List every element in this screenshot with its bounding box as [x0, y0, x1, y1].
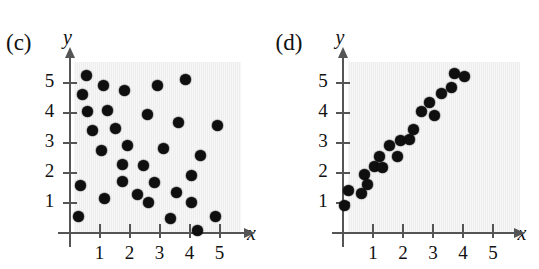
panel-d-y-tick-2 — [336, 172, 350, 174]
data-point — [192, 225, 203, 236]
data-point — [117, 159, 128, 170]
panel-d-x-tick-label-5: 5 — [485, 242, 501, 264]
panel-c-x-tick-2 — [129, 224, 131, 238]
data-point — [73, 211, 84, 222]
panel-c-y-axis — [69, 57, 71, 247]
data-point — [436, 88, 447, 99]
data-point — [339, 200, 350, 211]
data-point — [408, 124, 419, 135]
panel-c-y-tick-2 — [63, 172, 77, 174]
data-point — [429, 110, 440, 121]
panel-c-y-tick-5 — [63, 82, 77, 84]
panel-d-x-tick-label-1: 1 — [365, 242, 381, 264]
data-point — [186, 197, 197, 208]
data-point — [96, 145, 107, 156]
data-point — [384, 140, 395, 151]
panel-c-y-axis-label: y — [63, 26, 72, 49]
data-point — [171, 187, 182, 198]
panel-c-x-tick-label-4: 4 — [182, 242, 198, 264]
panel-d-x-tick-1 — [372, 224, 374, 238]
panel-d-x-tick-4 — [462, 224, 464, 238]
data-point — [404, 134, 415, 145]
panel-d-x-axis-arrow — [514, 228, 525, 238]
data-point — [77, 89, 88, 100]
data-point — [110, 123, 121, 134]
panel-c-y-tick-1 — [63, 202, 77, 204]
data-point — [173, 117, 184, 128]
panel-d-y-tick-4 — [336, 112, 350, 114]
data-point — [122, 140, 133, 151]
panel-d-x-tick-label-4: 4 — [455, 242, 471, 264]
data-point — [362, 179, 373, 190]
panel-d-x-tick-label-3: 3 — [425, 242, 441, 264]
panel-d-x-tick-label-2: 2 — [395, 242, 411, 264]
panel-d-plot-background — [348, 62, 520, 233]
data-point — [459, 71, 470, 82]
panel-d-x-tick-3 — [432, 224, 434, 238]
scatterplot-figure: (c) y x 1234512345 (d) y x 1234512345 — [0, 0, 539, 269]
panel-d-y-tick-label-1: 1 — [315, 190, 331, 212]
panel-d-y-tick-label-3: 3 — [315, 130, 331, 152]
data-point — [186, 170, 197, 181]
panel-d-y-axis-label: y — [336, 26, 345, 49]
panel-c-y-axis-arrow — [65, 47, 75, 58]
panel-c-x-tick-5 — [219, 224, 221, 238]
panel-d-y-tick-5 — [336, 82, 350, 84]
panel-c-y-tick-label-5: 5 — [42, 70, 58, 92]
data-point — [143, 197, 154, 208]
panel-c-x-tick-3 — [159, 224, 161, 238]
panel-d-x-tick-2 — [402, 224, 404, 238]
panel-c-x-axis — [58, 232, 244, 234]
panel-c-y-tick-3 — [63, 142, 77, 144]
data-point — [82, 106, 93, 117]
panel-c-y-tick-label-2: 2 — [42, 160, 58, 182]
panel-d-y-tick-3 — [336, 142, 350, 144]
data-point — [98, 80, 109, 91]
panel-d-x-tick-5 — [492, 224, 494, 238]
data-point — [152, 80, 163, 91]
panel-d-y-axis-arrow — [338, 47, 348, 58]
data-point — [212, 120, 223, 131]
panel-d: (d) y x 1234512345 — [270, 0, 539, 269]
panel-d-y-tick-label-5: 5 — [315, 70, 331, 92]
panel-c-x-tick-label-2: 2 — [122, 242, 138, 264]
panel-c-x-axis-arrow — [244, 228, 255, 238]
panel-c-x-tick-label-1: 1 — [92, 242, 108, 264]
panel-c-x-tick-1 — [99, 224, 101, 238]
data-point — [119, 85, 130, 96]
panel-d-y-tick-label-4: 4 — [315, 100, 331, 122]
panel-c-y-tick-label-3: 3 — [42, 130, 58, 152]
data-point — [158, 143, 169, 154]
panel-c-y-tick-4 — [63, 112, 77, 114]
data-point — [343, 185, 354, 196]
data-point — [117, 176, 128, 187]
panel-c-y-tick-label-1: 1 — [42, 190, 58, 212]
data-point — [142, 109, 153, 120]
panel-d-y-tick-label-2: 2 — [315, 160, 331, 182]
panel-c-x-tick-4 — [189, 224, 191, 238]
data-point — [75, 180, 86, 191]
panel-d-y-axis — [342, 57, 344, 247]
data-point — [195, 150, 206, 161]
data-point — [424, 97, 435, 108]
data-point — [81, 70, 92, 81]
data-point — [149, 177, 160, 188]
panel-d-label: (d) — [276, 30, 303, 56]
panel-c-label: (c) — [6, 30, 32, 56]
data-point — [180, 74, 191, 85]
panel-c-y-tick-label-4: 4 — [42, 100, 58, 122]
panel-d-x-axis — [332, 232, 514, 234]
panel-c: (c) y x 1234512345 — [0, 0, 270, 269]
panel-c-x-tick-label-5: 5 — [212, 242, 228, 264]
panel-c-x-tick-label-3: 3 — [152, 242, 168, 264]
